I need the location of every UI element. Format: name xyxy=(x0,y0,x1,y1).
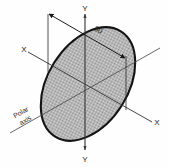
polar-axis-label-group: Polar axis xyxy=(12,105,35,127)
x-axis-left-label: X xyxy=(21,45,27,54)
y-axis-bottom-label: Y xyxy=(82,155,88,164)
x-axis-right-label: X xyxy=(154,118,160,127)
ellipse-shape xyxy=(21,10,155,158)
figure-canvas: Y Y X X 80 Polar axis xyxy=(0,0,169,167)
technical-drawing-figure: Y Y X X 80 Polar axis xyxy=(0,0,169,167)
y-axis-top-label: Y xyxy=(82,4,88,13)
